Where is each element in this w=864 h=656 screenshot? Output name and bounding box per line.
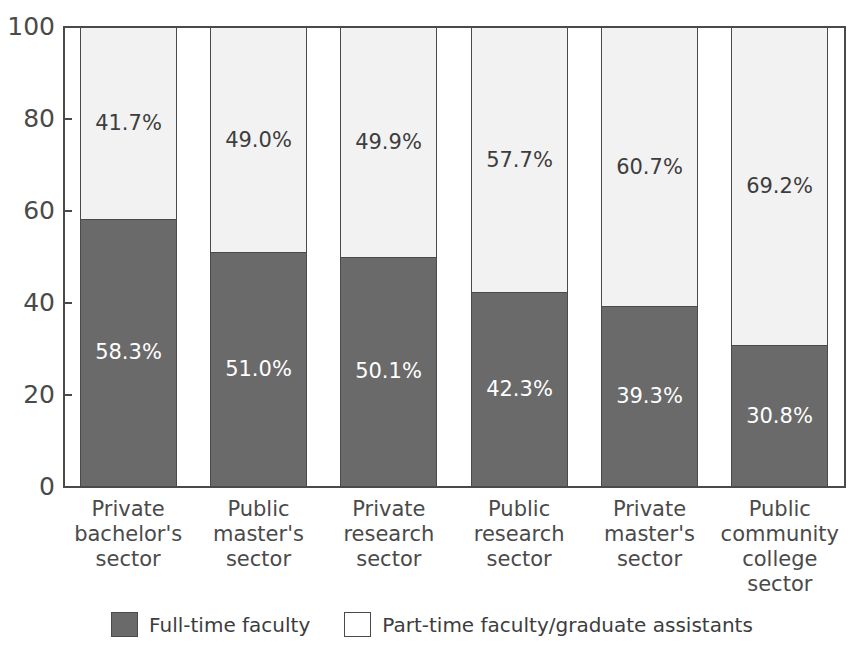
category-label-line: sector [454,547,584,572]
bar-segment-value-label: 60.7% [616,157,683,178]
x-axis-category-label: Publicresearchsector [454,497,584,572]
bar-segment-full-time: 50.1% [340,257,437,487]
bar-segment-part-time: 49.0% [210,27,307,252]
category-label-line: research [454,522,584,547]
category-label-line: master's [584,522,714,547]
category-label-line: sector [715,572,845,597]
category-label-line: college [715,547,845,572]
bar-segment-part-time: 60.7% [601,27,698,306]
x-axis-category-label: Privateresearchsector [324,497,454,572]
bar-segment-part-time: 49.9% [340,27,437,257]
category-label-line: sector [63,547,193,572]
category-label-line: Private [584,497,714,522]
bar-segment-full-time: 51.0% [210,252,307,487]
bar-segment-value-label: 50.1% [355,361,422,382]
legend-label: Part-time faculty/graduate assistants [382,615,753,635]
bar-segment-value-label: 39.3% [616,386,683,407]
bar-stack: 41.7%58.3% [80,27,177,487]
bar-stack: 49.0%51.0% [210,27,307,487]
bar-segment-full-time: 58.3% [80,219,177,487]
x-axis-category-label: Privatebachelor'ssector [63,497,193,572]
bar-segment-value-label: 49.0% [225,130,292,151]
bar-stack: 57.7%42.3% [471,27,568,487]
bar-segment-value-label: 49.9% [355,132,422,153]
category-label-line: sector [193,547,323,572]
x-axis-category-label: Publicmaster'ssector [193,497,323,572]
category-label-line: sector [324,547,454,572]
category-label-line: Public [193,497,323,522]
bar-segment-value-label: 51.0% [225,359,292,380]
category-label-line: bachelor's [63,522,193,547]
x-axis-category-label: Privatemaster'ssector [584,497,714,572]
bar-segment-value-label: 69.2% [746,176,813,197]
bar-segment-value-label: 41.7% [95,113,162,134]
bar-segment-full-time: 39.3% [601,306,698,487]
bar-segment-part-time: 41.7% [80,27,177,219]
bar-stack: 60.7%39.3% [601,27,698,487]
bar-stack: 69.2%30.8% [731,27,828,487]
stacked-bar-chart: 020406080100 41.7%58.3%49.0%51.0%49.9%50… [0,0,864,656]
category-label-line: master's [193,522,323,547]
legend-label: Full-time faculty [149,615,310,635]
chart-legend: Full-time facultyPart-time faculty/gradu… [0,612,864,637]
x-axis-category-label: Publiccommunitycollegesector [715,497,845,597]
category-label-line: research [324,522,454,547]
bar-segment-value-label: 42.3% [486,379,553,400]
bar-segment-value-label: 30.8% [746,406,813,427]
bar-segment-full-time: 30.8% [731,345,828,487]
category-label-line: Private [324,497,454,522]
category-label-line: sector [584,547,714,572]
category-label-line: community [715,522,845,547]
category-label-line: Public [454,497,584,522]
dark-gray-swatch [111,612,138,637]
bar-segment-part-time: 69.2% [731,27,828,345]
category-label-line: Public [715,497,845,522]
legend-item[interactable]: Full-time faculty [111,612,310,637]
bar-segment-full-time: 42.3% [471,292,568,487]
bar-stack: 49.9%50.1% [340,27,437,487]
bar-segment-value-label: 57.7% [486,150,553,171]
bar-segment-value-label: 58.3% [95,342,162,363]
category-label-line: Private [63,497,193,522]
bar-segment-part-time: 57.7% [471,27,568,292]
white-swatch [344,612,371,637]
legend-item[interactable]: Part-time faculty/graduate assistants [344,612,753,637]
